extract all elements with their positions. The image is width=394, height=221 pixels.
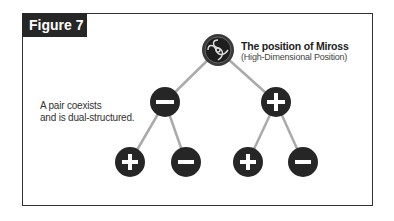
root-node [202,34,234,66]
root-subtitle: (High-Dimensional Position) [241,52,347,62]
node-plus [261,87,291,117]
node-plus [233,147,263,177]
annotation: A pair coexists and is dual-structured. [40,100,134,124]
annotation-line: and is dual-structured. [40,112,134,124]
node-minus [288,147,318,177]
node-minus [150,87,180,117]
annotation-line: A pair coexists [40,100,134,112]
node-plus [115,147,145,177]
root-title: The position of Miross [241,40,349,52]
node-minus [171,147,201,177]
